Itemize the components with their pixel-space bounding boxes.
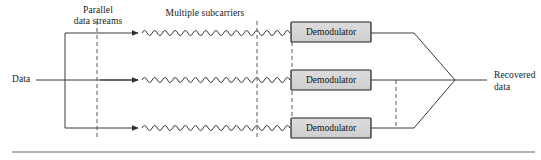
- output-label-line2: data: [494, 82, 510, 93]
- subcarrier-wave-2: [142, 78, 290, 83]
- figure-canvas: Data Parallel data streams Multiple subc…: [0, 0, 541, 160]
- output-combiner-group: [371, 33, 487, 128]
- parallel-streams-label-line2: data streams: [50, 16, 146, 27]
- combiner-arm-top: [371, 33, 455, 80]
- subcarrier-waveforms-group: [142, 31, 290, 131]
- demodulator-blocks-group: [291, 22, 371, 138]
- demodulator-box-3[interactable]: [291, 118, 371, 138]
- demodulator-box-1[interactable]: [291, 22, 371, 42]
- subcarrier-wave-1: [142, 31, 290, 36]
- demodulator-box-2[interactable]: [291, 70, 371, 90]
- input-label: Data: [12, 74, 30, 85]
- output-label-line1: Recovered: [494, 70, 536, 81]
- subcarriers-label: Multiple subcarriers: [140, 8, 270, 19]
- subcarrier-wave-3: [142, 126, 290, 131]
- combiner-arm-bottom: [371, 80, 455, 128]
- input-feed-group: [36, 33, 138, 128]
- parallel-streams-label-line1: Parallel: [58, 5, 138, 16]
